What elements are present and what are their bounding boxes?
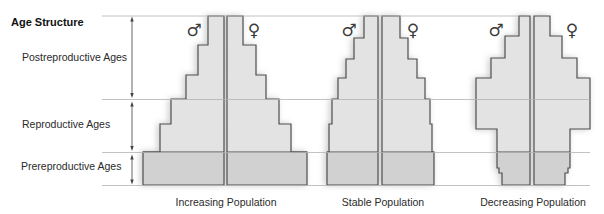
age-cohort-bar (382, 16, 400, 38)
age-cohort-bar (534, 173, 565, 185)
age-cohort-bar (186, 75, 224, 99)
age-cohort-bar (534, 129, 570, 152)
age-cohort-bar (332, 99, 378, 124)
age-cohort-bar (208, 16, 224, 45)
age-cohort-bar (354, 38, 378, 59)
caption-decreasing-population: Decreasing Population (480, 196, 586, 208)
male-half (476, 16, 530, 185)
arrowhead-up-icon (130, 102, 133, 107)
female-symbol-icon: ♀ (407, 20, 419, 40)
age-cohort-bar (534, 58, 577, 78)
male-symbol-icon: ♂ (341, 20, 356, 40)
age-cohort-bar (519, 16, 530, 36)
age-cohort-bar (198, 45, 224, 75)
age-cohort-bar (329, 124, 378, 152)
caption-increasing-population: Increasing Population (176, 196, 277, 208)
arrowhead-down-icon (130, 146, 133, 151)
age-structure-diagram: Age Structure Postreproductive Ages Repr… (0, 0, 604, 214)
pyramid-decreasing (476, 16, 590, 185)
label-postreproductive-ages: Postreproductive Ages (22, 51, 127, 63)
label-reproductive-ages: Reproductive Ages (22, 118, 110, 130)
age-cohort-bar (382, 78, 425, 99)
age-cohort-bar (534, 168, 568, 173)
female-half (382, 16, 434, 185)
female-symbol-icon: ♀ (248, 20, 260, 40)
age-cohort-bar (382, 124, 432, 152)
postreproductive-arrow (130, 17, 133, 99)
age-cohort-bar (382, 152, 434, 185)
age-cohort-bar (364, 16, 378, 38)
age-cohort-bar (227, 152, 307, 185)
age-cohort-bar (327, 152, 378, 185)
age-cohort-bar (160, 124, 224, 152)
male-half (143, 16, 224, 185)
arrowhead-up-icon (130, 17, 133, 22)
female-symbol-icon: ♀ (566, 20, 578, 40)
age-cohort-bar (382, 99, 430, 124)
age-cohort-bar (497, 152, 530, 168)
age-cohort-bar (338, 78, 378, 99)
age-cohort-bar (346, 59, 378, 78)
age-cohort-bar (227, 124, 291, 152)
arrowhead-up-icon (130, 155, 133, 160)
pyramid-increasing (143, 16, 307, 185)
pyramids (143, 16, 590, 185)
female-half (227, 16, 307, 185)
age-cohort-bar (497, 129, 530, 152)
age-cohort-bar (534, 16, 550, 36)
age-cohort-bar (491, 58, 530, 78)
age-cohort-bar (499, 168, 530, 173)
age-cohort-bar (171, 99, 224, 124)
age-cohort-bar (505, 36, 530, 58)
male-half (327, 16, 378, 185)
age-cohort-bar (382, 38, 408, 59)
age-cohort-bar (534, 36, 562, 58)
age-cohort-bar (534, 152, 570, 168)
arrowhead-down-icon (130, 180, 133, 185)
age-cohort-bar (227, 16, 243, 45)
reproductive-arrow (130, 102, 133, 152)
diagram-title: Age Structure (11, 16, 84, 28)
age-cohort-bar (534, 78, 590, 129)
age-cohort-bar (227, 75, 266, 99)
age-cohort-bar (227, 99, 279, 124)
age-cohort-bar (143, 152, 224, 185)
age-cohort-bar (502, 173, 530, 185)
age-cohort-bar (476, 78, 530, 129)
age-band-arrows (130, 17, 133, 185)
prereproductive-arrow (130, 155, 133, 185)
pyramid-stable (327, 16, 434, 185)
male-symbol-icon: ♂ (488, 20, 503, 40)
age-cohort-bar (227, 45, 256, 75)
male-symbol-icon: ♂ (186, 20, 201, 40)
age-cohort-bar (382, 59, 417, 78)
label-prereproductive-ages: Prereproductive Ages (21, 160, 121, 172)
caption-stable-population: Stable Population (342, 196, 424, 208)
female-half (534, 16, 590, 185)
arrowhead-down-icon (130, 93, 133, 98)
